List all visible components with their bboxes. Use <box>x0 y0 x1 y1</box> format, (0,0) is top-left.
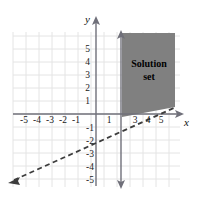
y-tick-label: 5 <box>85 44 90 54</box>
y-tick-label: 3 <box>85 70 90 80</box>
coordinate-plane-svg: y x -5 -4 -3 -2 -1 1 3 4 5 5 4 3 2 1 -1 … <box>0 0 199 205</box>
x-tick-label: -2 <box>59 115 67 125</box>
solution-label-line1: Solution <box>131 58 167 69</box>
x-tick-label: -3 <box>46 115 54 125</box>
x-tick-label: 5 <box>159 115 164 125</box>
x-tick-label: 4 <box>146 115 151 125</box>
y-tick-label: -4 <box>86 162 94 172</box>
y-tick-label: -2 <box>86 136 94 146</box>
y-axis-label: y <box>84 13 90 25</box>
x-tick-label: -1 <box>72 115 80 125</box>
solution-label-line2: set <box>143 71 155 82</box>
y-tick-label: -1 <box>86 123 94 133</box>
y-tick-label: -3 <box>86 149 94 159</box>
graph-figure: y x -5 -4 -3 -2 -1 1 3 4 5 5 4 3 2 1 -1 … <box>0 0 199 205</box>
x-tick-label: 1 <box>107 115 112 125</box>
y-tick-label: -5 <box>86 175 94 185</box>
x-tick-label: -5 <box>20 115 28 125</box>
y-tick-label: 2 <box>85 83 90 93</box>
y-tick-label: 4 <box>85 57 90 67</box>
y-tick-label: 1 <box>85 96 90 106</box>
x-tick-label: 3 <box>133 115 138 125</box>
x-axis-label: x <box>183 116 189 128</box>
x-tick-label: -4 <box>33 115 41 125</box>
